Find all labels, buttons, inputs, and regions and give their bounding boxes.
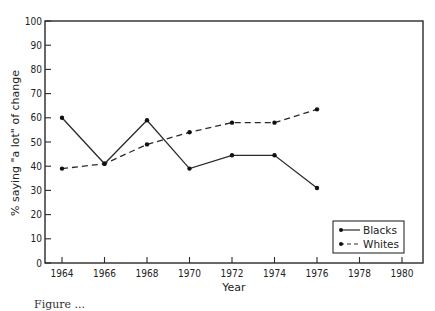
x-axis: 196419661968197019721974197619781980: [51, 257, 414, 279]
data-point: [230, 120, 234, 124]
data-point: [187, 130, 191, 134]
data-point: [60, 166, 64, 170]
data-point: [272, 120, 276, 124]
y-axis-title: % saying "a lot" of change: [9, 70, 22, 216]
figure-caption: Figure ...: [34, 298, 85, 311]
y-tick-label: 30: [31, 185, 43, 196]
data-point: [230, 153, 234, 157]
x-tick-label: 1970: [178, 268, 201, 279]
legend: Blacks Whites: [333, 221, 404, 253]
y-tick-label: 70: [31, 88, 43, 99]
data-point: [60, 116, 64, 120]
x-axis-title: Year: [221, 281, 246, 294]
y-tick-label: 0: [36, 258, 42, 269]
legend-blacks: Blacks: [363, 224, 397, 236]
y-tick-label: 80: [31, 64, 43, 75]
y-tick-label: 90: [31, 40, 43, 51]
data-point: [102, 162, 106, 166]
y-tick-label: 20: [31, 209, 43, 220]
y-tick-label: 50: [31, 137, 43, 148]
x-tick-label: 1974: [263, 268, 286, 279]
series-layer: [60, 107, 319, 190]
data-point: [187, 166, 191, 170]
y-tick-label: 10: [31, 233, 43, 244]
x-tick-label: 1978: [348, 268, 371, 279]
x-tick-label: 1964: [51, 268, 74, 279]
y-tick-label: 60: [31, 112, 43, 123]
y-axis: 0102030405060708090100: [25, 16, 51, 269]
y-tick-label: 100: [25, 16, 42, 27]
x-tick-label: 1966: [93, 268, 116, 279]
data-point: [315, 186, 319, 190]
x-tick-label: 1972: [221, 268, 244, 279]
data-point: [145, 118, 149, 122]
data-point: [272, 153, 276, 157]
x-tick-label: 1980: [391, 268, 414, 279]
y-tick-label: 40: [31, 161, 43, 172]
data-point: [315, 107, 319, 111]
series-blacks: [62, 118, 317, 188]
x-tick-label: 1968: [136, 268, 159, 279]
legend-whites: Whites: [363, 238, 399, 250]
data-point: [145, 142, 149, 146]
x-tick-label: 1976: [306, 268, 329, 279]
